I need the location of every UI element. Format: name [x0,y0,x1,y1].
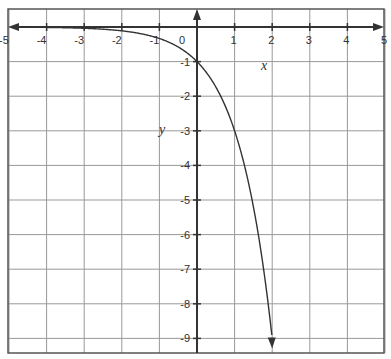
y-tick-label: -6 [180,229,190,241]
tick-labels: -5-4-3-2-1012345-1-2-3-4-5-6-7-8-9 [0,23,387,344]
function-curve [11,27,272,335]
x-tick-label: 5 [381,34,387,46]
y-tick-label: -8 [180,298,190,310]
chart-plot: -5-4-3-2-1012345-1-2-3-4-5-6-7-8-9 x y [0,0,391,359]
y-tick-label: -1 [180,56,190,68]
curve-down-arrow-icon [268,337,276,348]
y-tick-label: -5 [180,194,190,206]
x-tick-label: -3 [74,34,84,46]
x-tick-label: -2 [112,34,122,46]
x-tick-label: 2 [268,34,274,46]
y-tick-label: -3 [180,125,190,137]
x-tick-label: 0 [179,34,185,46]
x-tick-label: 3 [306,34,312,46]
y-axis-up-arrow-icon [193,9,201,20]
y-tick-label: -9 [180,332,190,344]
x-tick-label: -5 [0,34,9,46]
x-axis-label: x [260,58,268,73]
x-tick-label: 4 [343,34,349,46]
y-axis-label: y [157,122,166,137]
y-tick-label: -7 [180,263,190,275]
x-axis-right-arrow-icon [373,23,384,31]
x-tick-label: -4 [37,34,47,46]
y-tick-label: -2 [180,90,190,102]
curve-arrow-icons [268,337,276,348]
y-tick-label: -4 [180,159,190,171]
x-tick-label: 1 [231,34,237,46]
